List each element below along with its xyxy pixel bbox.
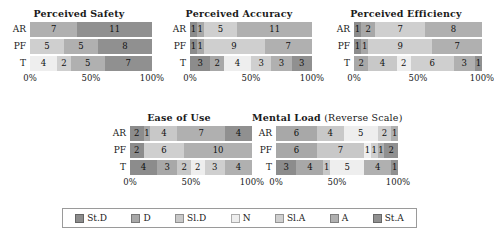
panel-title: Perceived Safety: [6, 8, 152, 19]
bar-segment: 4: [368, 56, 396, 71]
bar-segment: 3: [251, 56, 271, 71]
bar-segment: 1: [391, 160, 398, 175]
bar-segment: 5: [344, 126, 378, 141]
panel-title-main: Mental Load: [252, 112, 321, 123]
x-axis-tick: 100%: [300, 73, 324, 83]
bar-row: PF671112: [252, 143, 398, 158]
bar-segment: 1: [391, 126, 398, 141]
bar-segment: 1: [144, 126, 151, 141]
x-axis-tick: 0%: [23, 73, 37, 83]
bar-segment: 5: [71, 56, 105, 71]
bar-segment: 1: [197, 22, 204, 37]
legend-swatch-icon: [231, 214, 240, 223]
stacked-bar: 324333: [190, 56, 312, 71]
x-axis-tick: 50%: [182, 177, 201, 187]
bar-row: PF1197: [330, 39, 482, 54]
bar-segment: 7: [432, 39, 482, 54]
plot-area: AR711PF558T42570%50%100%: [6, 22, 152, 85]
x-axis-tick: 50%: [82, 73, 101, 83]
bar-segment: 6: [276, 143, 317, 158]
stacked-bar: 432234: [130, 160, 252, 175]
bar-row: AR21474: [106, 126, 252, 141]
legend-item[interactable]: St.A: [373, 213, 404, 223]
chart-panel: Ease of UseAR21474PF2610T4322340%50%100%: [106, 112, 252, 189]
stacked-bar: 4257: [30, 56, 152, 71]
legend-swatch-icon: [275, 214, 284, 223]
bar-segment: 4: [296, 160, 323, 175]
x-axis-tick: 100%: [386, 177, 410, 187]
bar-segment: 7: [375, 22, 425, 37]
bar-segment: 4: [130, 160, 157, 175]
stacked-bar: 671112: [276, 143, 398, 158]
bar-segment: 2: [354, 56, 368, 71]
bar-segment: 1: [190, 22, 197, 37]
bar-segment: 9: [368, 39, 432, 54]
bar-row: T341541: [252, 160, 398, 175]
bar-segment: 2: [191, 160, 205, 175]
legend-item[interactable]: Sl.D: [175, 213, 206, 223]
panel-title-main: Perceived Safety: [33, 8, 124, 19]
bar-row-label: T: [106, 160, 126, 175]
legend-label: N: [243, 213, 251, 223]
bar-segment: 3: [454, 56, 475, 71]
bar-row-label: PF: [166, 39, 186, 54]
bar-segment: 7: [30, 22, 77, 37]
legend-item[interactable]: St.D: [75, 213, 107, 223]
bar-segment: 3: [276, 160, 296, 175]
legend-label: St.D: [87, 213, 107, 223]
bar-row-label: T: [166, 56, 186, 71]
bar-segment: 7: [317, 143, 364, 158]
bar-row-label: AR: [106, 126, 126, 141]
legend-swatch-icon: [75, 214, 84, 223]
bar-segment: 2: [130, 143, 144, 158]
legend-label: St.A: [385, 213, 404, 223]
bar-segment: 1: [361, 39, 368, 54]
bar-segment: 2: [177, 160, 191, 175]
legend-label: Sl.D: [187, 213, 206, 223]
bar-row: PF1197: [166, 39, 312, 54]
plot-area: AR11511PF1197T3243330%50%100%: [166, 22, 312, 85]
x-axis-tick: 0%: [123, 177, 137, 187]
legend-label: D: [143, 213, 150, 223]
panel-title: Perceived Efficiency: [330, 8, 482, 19]
bar-row-label: T: [330, 56, 350, 71]
bar-segment: 1: [323, 160, 330, 175]
chart-panel: Perceived AccuracyAR11511PF1197T3243330%…: [166, 8, 312, 85]
bar-segment: 6: [144, 143, 185, 158]
stacked-bar: 711: [30, 22, 152, 37]
bar-segment: 5: [204, 22, 238, 37]
plot-area: AR1278PF1197T2426310%50%100%: [330, 22, 482, 85]
bar-row-label: PF: [252, 143, 272, 158]
bar-segment: 1: [371, 143, 378, 158]
bar-segment: 1: [475, 56, 482, 71]
legend-label: A: [342, 213, 349, 223]
bar-segment: 1: [378, 143, 385, 158]
panel-title: Mental Load (Reverse Scale): [252, 112, 398, 123]
bar-segment: 2: [397, 56, 411, 71]
legend-item[interactable]: A: [330, 213, 349, 223]
bar-row: PF2610: [106, 143, 252, 158]
bar-row-label: AR: [330, 22, 350, 37]
bar-segment: 1: [354, 22, 361, 37]
bar-row-label: AR: [6, 22, 26, 37]
panel-title-main: Perceived Efficiency: [350, 8, 462, 19]
plot-area: AR64521PF671112T3415410%50%100%: [252, 126, 398, 189]
bar-segment: 3: [205, 160, 225, 175]
plot-area: AR21474PF2610T4322340%50%100%: [106, 126, 252, 189]
legend-item[interactable]: D: [131, 213, 150, 223]
x-axis: 0%50%100%: [354, 73, 482, 85]
legend-item[interactable]: N: [231, 213, 251, 223]
bar-segment: 7: [265, 39, 312, 54]
bar-segment: 6: [276, 126, 317, 141]
bar-segment: 2: [130, 126, 144, 141]
stacked-bar: 1197: [354, 39, 482, 54]
legend-swatch-icon: [330, 214, 339, 223]
bar-row-label: T: [6, 56, 26, 71]
chart-panel: Perceived SafetyAR711PF558T42570%50%100%: [6, 8, 152, 85]
chart-legend: St.DDSl.DNSl.AASt.A: [62, 208, 417, 228]
bar-segment: 7: [105, 56, 152, 71]
bar-segment: 11: [237, 22, 312, 37]
x-axis: 0%50%100%: [190, 73, 312, 85]
legend-item[interactable]: Sl.A: [275, 213, 305, 223]
